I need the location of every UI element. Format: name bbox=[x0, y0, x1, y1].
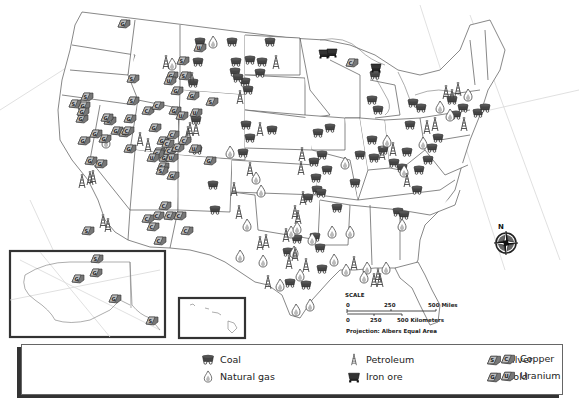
svg-text:S: S bbox=[84, 94, 88, 100]
compass-north-label: N bbox=[498, 223, 504, 231]
svg-text:U: U bbox=[504, 373, 508, 379]
legend-item-petroleum: Petroleum bbox=[346, 351, 414, 368]
legend-label-uranium: Uranium bbox=[520, 370, 561, 381]
svg-text:C: C bbox=[182, 138, 186, 144]
legend-label-coal: Coal bbox=[220, 354, 241, 365]
svg-text:S: S bbox=[159, 168, 163, 174]
scale-km-0: 0 bbox=[346, 317, 350, 323]
svg-text:S: S bbox=[94, 256, 98, 262]
svg-text:U: U bbox=[192, 146, 196, 152]
resource-map: SSSSSSSSSSSSSGGGGGGGGGGGGGGGGGGGGGGGGGGG… bbox=[0, 0, 579, 402]
svg-text:S: S bbox=[182, 73, 186, 79]
svg-text:C: C bbox=[167, 213, 171, 219]
silver-symbol-icon: S bbox=[82, 227, 94, 235]
svg-text:G: G bbox=[127, 146, 131, 152]
natural-gas-icon bbox=[200, 370, 216, 383]
svg-text:C: C bbox=[155, 103, 159, 109]
svg-text:S: S bbox=[180, 58, 184, 64]
petroleum-symbol-icon bbox=[79, 174, 85, 188]
svg-text:G: G bbox=[75, 276, 79, 282]
svg-text:C: C bbox=[504, 356, 508, 362]
alaska-inset bbox=[10, 251, 165, 337]
petroleum-symbol-icon bbox=[371, 273, 377, 287]
compass-rose-icon: N bbox=[494, 223, 518, 255]
svg-text:S: S bbox=[85, 228, 89, 234]
svg-text:G: G bbox=[190, 93, 194, 99]
svg-text:G: G bbox=[88, 158, 92, 164]
svg-text:C: C bbox=[145, 216, 149, 222]
svg-text:G: G bbox=[102, 136, 106, 142]
svg-text:G: G bbox=[121, 21, 125, 27]
svg-text:C: C bbox=[184, 228, 188, 234]
svg-text:C: C bbox=[157, 238, 161, 244]
hawaii-inset bbox=[179, 298, 245, 338]
legend: Coal Natural gas Petroleum Iron ore S Si… bbox=[21, 344, 563, 395]
svg-text:U: U bbox=[169, 155, 173, 161]
legend-label-copper: Copper bbox=[520, 353, 554, 364]
projection-label: Projection: Albers Equal Area bbox=[346, 328, 437, 335]
uranium-icon: U bbox=[500, 369, 516, 382]
svg-text:G: G bbox=[170, 173, 174, 179]
petroleum-symbol-icon bbox=[377, 273, 383, 287]
svg-text:G: G bbox=[104, 115, 108, 121]
svg-text:G: G bbox=[490, 374, 495, 380]
legend-item-coal: Coal bbox=[200, 351, 275, 368]
svg-text:C: C bbox=[177, 213, 181, 219]
petroleum-icon bbox=[346, 353, 362, 366]
svg-text:G: G bbox=[80, 109, 84, 115]
svg-text:S: S bbox=[130, 76, 134, 82]
scale-miles-500: 500 Miles bbox=[428, 302, 458, 308]
svg-text:S: S bbox=[72, 101, 76, 107]
scale-miles-250: 250 bbox=[384, 302, 396, 308]
svg-text:S: S bbox=[149, 318, 153, 324]
svg-text:U: U bbox=[150, 155, 154, 161]
svg-text:C: C bbox=[175, 145, 179, 151]
coal-symbol-icon bbox=[480, 104, 490, 113]
svg-text:U: U bbox=[193, 110, 197, 116]
legend-item-natural-gas: Natural gas bbox=[200, 368, 275, 385]
svg-text:C: C bbox=[170, 132, 174, 138]
legend-label-iron-ore: Iron ore bbox=[366, 371, 403, 382]
svg-text:U: U bbox=[167, 78, 171, 84]
scale-title: SCALE bbox=[345, 292, 365, 298]
svg-text:G: G bbox=[112, 296, 116, 302]
coal-icon bbox=[200, 353, 216, 366]
legend-item-iron-ore: Iron ore bbox=[346, 368, 414, 385]
svg-text:C: C bbox=[155, 213, 159, 219]
legend-col-4: C Copper U Uranium bbox=[500, 350, 561, 384]
svg-text:G: G bbox=[93, 131, 97, 137]
svg-text:C: C bbox=[150, 224, 154, 230]
svg-text:G: G bbox=[81, 138, 85, 144]
svg-text:G: G bbox=[160, 138, 164, 144]
svg-text:G: G bbox=[174, 88, 178, 94]
svg-text:U: U bbox=[179, 113, 183, 119]
legend-col-2: Petroleum Iron ore bbox=[346, 351, 414, 385]
svg-text:C: C bbox=[165, 141, 169, 147]
svg-text:G: G bbox=[127, 116, 131, 122]
svg-text:G: G bbox=[207, 158, 211, 164]
legend-label-natural-gas: Natural gas bbox=[220, 371, 275, 382]
svg-text:S: S bbox=[209, 99, 213, 105]
svg-text:S: S bbox=[130, 98, 134, 104]
svg-text:G: G bbox=[152, 125, 156, 131]
scale-miles-0: 0 bbox=[346, 302, 350, 308]
svg-text:C: C bbox=[167, 148, 171, 154]
svg-text:S: S bbox=[490, 357, 494, 363]
copper-icon: C bbox=[500, 352, 516, 365]
legend-col-1: Coal Natural gas bbox=[200, 351, 275, 385]
scale-bar: SCALE 0 250 500 Miles 0 250 500 Kilomete… bbox=[345, 292, 458, 335]
svg-text:G: G bbox=[114, 128, 118, 134]
legend-label-petroleum: Petroleum bbox=[366, 354, 414, 365]
legend-item-copper: C Copper bbox=[500, 350, 561, 367]
scale-km-250: 250 bbox=[370, 317, 382, 323]
svg-text:G: G bbox=[172, 108, 176, 114]
svg-text:C: C bbox=[125, 128, 129, 134]
iron-ore-icon bbox=[346, 370, 362, 383]
svg-text:G: G bbox=[79, 116, 83, 122]
svg-text:C: C bbox=[162, 203, 166, 209]
svg-text:C: C bbox=[145, 108, 149, 114]
svg-text:G: G bbox=[93, 270, 97, 276]
scale-km-500: 500 Kilometers bbox=[397, 317, 445, 323]
svg-text:C: C bbox=[349, 60, 353, 66]
svg-text:G: G bbox=[98, 161, 102, 167]
